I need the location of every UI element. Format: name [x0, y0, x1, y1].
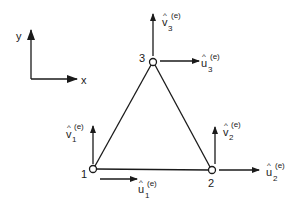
- node-1: 1: [81, 126, 137, 180]
- v3-sub: 3: [168, 24, 173, 33]
- node-2-label: 2: [208, 177, 214, 189]
- u2-sup: (e): [275, 161, 285, 170]
- u1-sup: (e): [147, 179, 157, 188]
- node-3-circle: [150, 59, 157, 66]
- u3-sup: (e): [210, 52, 220, 61]
- v1-sub: 1: [72, 135, 77, 144]
- triangle-element-diagram: y x 1 2 3 ^ v 1 (e) ^ u 1 (e): [0, 0, 300, 206]
- dof-label-v1: ^ v 1 (e): [66, 122, 84, 144]
- dof-label-v3: ^ v 3 (e): [162, 11, 181, 33]
- node-3-label: 3: [139, 52, 145, 64]
- u2-sub: 2: [273, 174, 278, 183]
- y-axis-label: y: [16, 30, 22, 42]
- dof-label-u3: ^ u 3 (e): [201, 52, 220, 74]
- u1-sub: 1: [145, 191, 150, 200]
- node-2: 2: [208, 127, 259, 189]
- triangle-element: [95, 65, 210, 170]
- edge-1-2: [96, 169, 209, 170]
- u3-sub: 3: [208, 65, 213, 74]
- v1-sup: (e): [74, 122, 84, 131]
- v2-sub: 2: [229, 133, 234, 142]
- u1-base: u: [138, 183, 144, 195]
- u3-base: u: [201, 57, 207, 69]
- edge-3-1: [95, 65, 151, 166]
- dof-label-v2: ^ v 2 (e): [223, 120, 241, 142]
- node-1-circle: [90, 166, 97, 173]
- node-1-label: 1: [81, 168, 87, 180]
- dof-label-u2: ^ u 2 (e): [266, 161, 285, 183]
- dof-label-u1: ^ u 1 (e): [138, 178, 157, 200]
- node-2-circle: [209, 167, 216, 174]
- u2-base: u: [266, 166, 272, 178]
- x-axis-label: x: [81, 74, 87, 86]
- v3-sup: (e): [171, 11, 181, 20]
- coordinate-axes: y x: [16, 30, 87, 86]
- v2-sup: (e): [231, 120, 241, 129]
- edge-2-3: [155, 65, 210, 167]
- node-3: 3: [139, 14, 199, 66]
